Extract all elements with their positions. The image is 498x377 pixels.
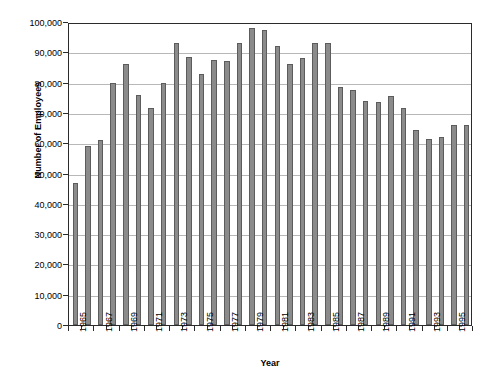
x-tick-label: 1971 xyxy=(154,312,164,332)
bar-chart: Number of Employees 100,00090,00080,0007… xyxy=(0,0,498,377)
x-tick-mark xyxy=(346,326,347,331)
x-tick-label: 1991 xyxy=(407,312,417,332)
bar xyxy=(350,90,356,325)
x-tick-label: 1977 xyxy=(230,312,240,332)
bar xyxy=(363,101,369,325)
x-tick-label: 1979 xyxy=(255,312,265,332)
y-tick-label: 10,000 xyxy=(0,291,62,301)
x-tick-mark xyxy=(422,326,423,331)
x-tick-label: 1973 xyxy=(179,312,189,332)
bar xyxy=(300,58,306,325)
bar xyxy=(451,125,457,325)
bar xyxy=(439,137,445,325)
x-tick-label: 1981 xyxy=(280,312,290,332)
x-tick-label: 1975 xyxy=(205,312,215,332)
x-tick-mark xyxy=(194,326,195,331)
y-tick-label: 50,000 xyxy=(0,170,62,180)
y-tick-label: 30,000 xyxy=(0,230,62,240)
y-tick-label: 80,000 xyxy=(0,79,62,89)
bar xyxy=(136,95,142,325)
bar xyxy=(123,64,129,325)
x-tick-label: 1967 xyxy=(104,312,114,332)
bar xyxy=(338,87,344,325)
y-tick-label: 60,000 xyxy=(0,139,62,149)
bar xyxy=(287,64,293,325)
bar xyxy=(98,140,104,325)
bar xyxy=(174,43,180,325)
bar xyxy=(426,139,432,325)
x-tick-label: 1989 xyxy=(381,312,391,332)
x-axis-title: Year xyxy=(68,358,472,368)
y-tick-label: 90,000 xyxy=(0,48,62,58)
bar xyxy=(237,43,243,325)
plot-area xyxy=(68,23,472,326)
bar xyxy=(161,83,167,325)
bar xyxy=(85,146,91,325)
bar xyxy=(224,61,230,325)
x-tick-label: 1983 xyxy=(306,312,316,332)
bar xyxy=(325,43,331,325)
bar xyxy=(249,28,255,325)
x-tick-mark xyxy=(93,326,94,331)
bar xyxy=(199,74,205,325)
y-tick-label: 70,000 xyxy=(0,109,62,119)
y-tick-label: 20,000 xyxy=(0,260,62,270)
x-tick-mark xyxy=(68,326,69,331)
bar xyxy=(211,60,217,325)
bar xyxy=(73,183,79,325)
x-tick-mark xyxy=(169,326,170,331)
bar xyxy=(262,30,268,325)
bar xyxy=(186,57,192,325)
x-tick-mark xyxy=(270,326,271,331)
x-tick-mark xyxy=(396,326,397,331)
bar xyxy=(401,108,407,325)
x-tick-label: 1969 xyxy=(129,312,139,332)
x-tick-label: 1993 xyxy=(432,312,442,332)
x-tick-mark xyxy=(144,326,145,331)
x-tick-mark xyxy=(220,326,221,331)
y-tick-label: 40,000 xyxy=(0,200,62,210)
bar xyxy=(110,83,116,325)
x-tick-mark xyxy=(321,326,322,331)
y-tick-label: 0 xyxy=(0,321,62,331)
x-tick-mark xyxy=(295,326,296,331)
bar xyxy=(312,43,318,325)
x-tick-label: 1995 xyxy=(457,312,467,332)
x-tick-mark xyxy=(371,326,372,331)
x-tick-label: 1965 xyxy=(78,312,88,332)
bar xyxy=(388,96,394,325)
x-tick-mark xyxy=(447,326,448,331)
x-tick-mark xyxy=(472,326,473,331)
bar xyxy=(413,130,419,325)
bar xyxy=(376,102,382,325)
x-tick-mark xyxy=(245,326,246,331)
bar xyxy=(275,46,281,325)
bars-layer xyxy=(69,24,471,325)
x-tick-mark xyxy=(119,326,120,331)
x-tick-label: 1985 xyxy=(331,312,341,332)
x-tick-label: 1987 xyxy=(356,312,366,332)
bar xyxy=(464,125,470,325)
y-tick-label: 100,000 xyxy=(0,18,62,28)
bar xyxy=(148,108,154,325)
